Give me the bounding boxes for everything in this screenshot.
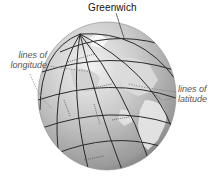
longitude-label: lines of longitude bbox=[7, 50, 47, 70]
longitude-label-line2: longitude bbox=[7, 60, 47, 70]
latitude-label-line1: lines of bbox=[178, 84, 215, 94]
globe-diagram: Greenwich lines of longitude lines of la… bbox=[0, 0, 215, 181]
greenwich-label: Greenwich bbox=[88, 2, 137, 13]
latitude-label: lines of latitude bbox=[178, 84, 215, 104]
latitude-label-line2: latitude bbox=[178, 94, 215, 104]
longitude-label-line1: lines of bbox=[7, 50, 47, 60]
